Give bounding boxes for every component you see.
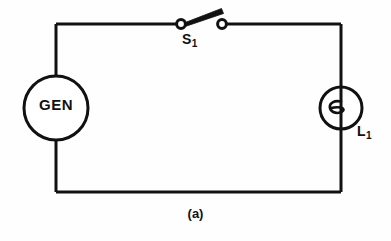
switch-symbol[interactable] [177, 9, 227, 29]
switch-right-terminal-icon[interactable] [218, 20, 227, 29]
switch-left-terminal-icon[interactable] [177, 20, 186, 29]
lamp-label-text: L [357, 123, 366, 139]
switch-label-subscript: 1 [191, 38, 197, 49]
circuit-diagram-figure: GEN S1 L1 (a) [0, 0, 391, 241]
figure-caption: (a) [0, 206, 391, 221]
lamp-label: L1 [357, 123, 372, 141]
switch-label: S1 [182, 31, 197, 49]
lamp-symbol [320, 87, 362, 129]
generator-label: GEN [24, 96, 88, 113]
switch-label-text: S [182, 31, 191, 47]
circuit-wires [56, 24, 341, 192]
lamp-label-subscript: 1 [366, 130, 372, 141]
